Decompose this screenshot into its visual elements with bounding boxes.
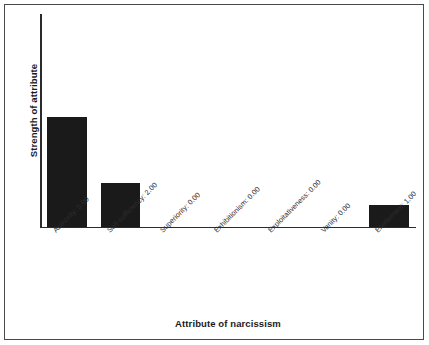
chart-figure: Strength of attribute Authority: 5.00Sel… (0, 0, 429, 345)
x-axis-tick-labels: Authority: 5.00Self-sufficiency: 2.00Sup… (40, 228, 416, 316)
plot-area (40, 14, 416, 227)
x-axis-title: Attribute of narcissism (40, 318, 416, 329)
y-axis-title: Strength of attribute (28, 31, 39, 191)
